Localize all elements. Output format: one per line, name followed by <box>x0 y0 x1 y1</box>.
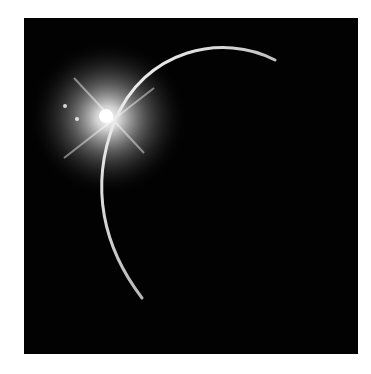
eclipse-illustration <box>24 18 358 354</box>
sun-point <box>99 109 113 123</box>
eclipse-photo <box>24 18 358 354</box>
flare-dot <box>75 117 79 121</box>
flare-dot <box>63 104 67 108</box>
